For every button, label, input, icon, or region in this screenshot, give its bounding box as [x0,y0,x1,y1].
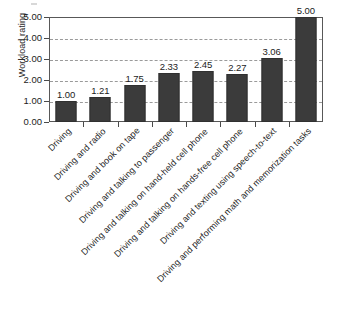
bar [295,17,316,122]
y-axis-tick-mark [44,122,49,123]
bar-value-label: 2.27 [228,62,247,73]
bar-slot: 2.27 [220,17,254,122]
x-axis-tick-mark [83,122,84,127]
x-axis-tick-mark [255,122,256,127]
bar-slot: 2.45 [186,17,220,122]
y-axis-tick-label: 1.00 [8,95,42,106]
x-axis-category-label: Driving and talking on hand-held cell ph… [79,126,210,257]
bar-slot: 1.00 [49,17,83,122]
bar-value-label: 5.00 [297,5,316,16]
bar-slot: 2.33 [152,17,186,122]
bar [90,97,111,122]
y-axis-tick-label: 5.00 [8,11,42,22]
x-axis-tick-mark [289,122,290,127]
bar [193,71,214,122]
bar-value-label: 2.45 [194,59,213,70]
x-axis-tick-mark [118,122,119,127]
y-axis-tick-label: 3.00 [8,53,42,64]
bar-chart-figure: Workload rating 5.004.003.002.001.000.00… [0,0,337,311]
bar-slot: 3.06 [255,17,289,122]
bar [227,74,248,122]
scan-artifact [31,3,37,5]
bar-value-label: 1.75 [125,73,144,84]
x-axis-tick-mark [220,122,221,127]
y-axis-tick-label: 2.00 [8,74,42,85]
x-axis-category-label: Driving [46,126,73,153]
x-axis-tick-mark [152,122,153,127]
bar-slot: 1.75 [118,17,152,122]
x-axis-tick-mark [186,122,187,127]
bar-value-label: 2.33 [160,61,179,72]
x-axis-category-label: Driving and talking on hands-free cell p… [112,126,245,259]
bar [158,73,179,122]
bar-value-label: 1.21 [91,85,110,96]
bar-slot: 5.00 [289,17,323,122]
y-axis-tick-label: 0.00 [8,116,42,127]
bar-series: 1.001.211.752.332.452.273.065.00 [49,17,323,122]
bar [56,101,77,122]
bar [124,85,145,122]
bar [261,58,282,122]
bar-slot: 1.21 [83,17,117,122]
y-axis-tick-label: 4.00 [8,32,42,43]
bar-value-label: 3.06 [262,46,281,57]
bar-value-label: 1.00 [57,89,76,100]
